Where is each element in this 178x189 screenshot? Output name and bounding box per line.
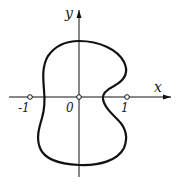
closed-curve: [38, 41, 126, 165]
tick-marker-pos-one: [125, 95, 130, 100]
x-axis-arrow-icon: [163, 95, 171, 100]
tick-marker-neg-one: [28, 95, 33, 100]
y-axis: [77, 10, 82, 177]
y-axis-arrow-icon: [77, 10, 82, 18]
y-axis-label: y: [64, 5, 74, 21]
tick-label-pos-one: 1: [121, 101, 129, 115]
x-axis: [9, 95, 171, 100]
diagram-canvas: y x 0 -1 1: [0, 0, 178, 189]
origin-label: 0: [66, 101, 74, 115]
tick-label-neg-one: -1: [18, 101, 30, 115]
origin-marker: [77, 95, 82, 100]
x-axis-label: x: [154, 79, 162, 95]
